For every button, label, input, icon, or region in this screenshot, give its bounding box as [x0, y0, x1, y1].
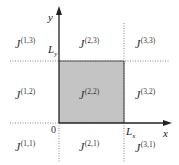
region-label-1-2: J(1,2) [15, 88, 35, 101]
ly-sub: y [54, 50, 57, 58]
region-sup: (1,2) [21, 87, 35, 96]
region-base: J [15, 88, 20, 102]
region-label-3-1: J(3,1) [135, 141, 155, 154]
region-sup: (2,2) [85, 87, 99, 96]
region-sup: (1,1) [21, 139, 35, 148]
region-base: J [135, 141, 140, 155]
region-label-3-2: J(3,2) [135, 88, 155, 101]
region-base: J [135, 37, 140, 51]
region-base: J [79, 140, 84, 154]
region-sup: (2,1) [85, 139, 99, 148]
y-axis-arrow-icon [56, 6, 62, 15]
region-base: J [15, 37, 20, 51]
region-base: J [135, 88, 140, 102]
region-sup: (1,3) [21, 36, 35, 45]
region-sup: (3,3) [141, 36, 155, 45]
region-sup: (3,2) [141, 87, 155, 96]
region-label-3-3: J(3,3) [135, 37, 155, 50]
region-sup: (2,3) [85, 36, 99, 45]
x-axis-arrow-icon [163, 120, 172, 126]
x-axis-label: x [163, 128, 168, 139]
region-label-2-2: J(2,2) [79, 88, 99, 101]
y-axis-label: y [48, 12, 53, 23]
region-label-1-3: J(1,3) [15, 37, 35, 50]
region-base: J [15, 140, 20, 154]
region-label-2-1: J(2,1) [79, 140, 99, 153]
region-label-2-3: J(2,3) [79, 37, 99, 50]
lx-label: Lx [126, 126, 135, 140]
region-sup: (3,1) [141, 140, 155, 149]
region-label-1-1: J(1,1) [15, 140, 35, 153]
lx-sub: x [132, 132, 135, 140]
ly-label: Ly [48, 44, 57, 58]
origin-label: 0 [51, 125, 56, 135]
region-base: J [79, 37, 84, 51]
region-base: J [79, 88, 84, 102]
